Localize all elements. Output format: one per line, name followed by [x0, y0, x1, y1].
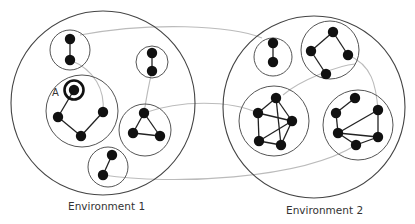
graph-node	[350, 93, 360, 103]
graph-node	[254, 136, 264, 146]
graph-node	[328, 27, 338, 37]
graph-node	[98, 170, 108, 180]
graph-node	[321, 69, 331, 79]
graph-edge	[338, 110, 378, 133]
graph-node	[147, 66, 157, 76]
environment-2-label: Environment 2	[286, 204, 363, 216]
link-curve	[103, 145, 356, 180]
graph-node	[107, 150, 117, 160]
graph-node	[373, 132, 383, 142]
graph-node	[373, 105, 383, 115]
link-curve	[144, 103, 258, 113]
graph-node	[147, 48, 157, 58]
graph-node	[351, 140, 361, 150]
graph-node	[306, 46, 316, 56]
environment-1-label: Environment 1	[68, 200, 145, 212]
graph-node	[271, 93, 281, 103]
graph-node	[276, 140, 286, 150]
graph-node	[155, 131, 165, 141]
link-curve	[80, 27, 262, 38]
graph-node	[268, 57, 278, 67]
graph-node	[253, 108, 263, 118]
environments-diagram	[0, 0, 415, 224]
graph-node	[65, 55, 75, 65]
graph-node	[139, 108, 149, 118]
graph-node	[333, 128, 343, 138]
graph-node	[76, 131, 86, 141]
graph-node	[65, 34, 75, 44]
graph-node	[53, 112, 63, 122]
graph-node	[331, 108, 341, 118]
link-curve	[283, 64, 355, 95]
graph-node	[287, 116, 297, 126]
graph-node	[69, 85, 79, 95]
node-a-label: A	[52, 87, 59, 98]
graph-node	[268, 38, 278, 48]
graph-node	[98, 107, 108, 117]
graph-node	[343, 50, 353, 60]
graph-node	[128, 128, 138, 138]
